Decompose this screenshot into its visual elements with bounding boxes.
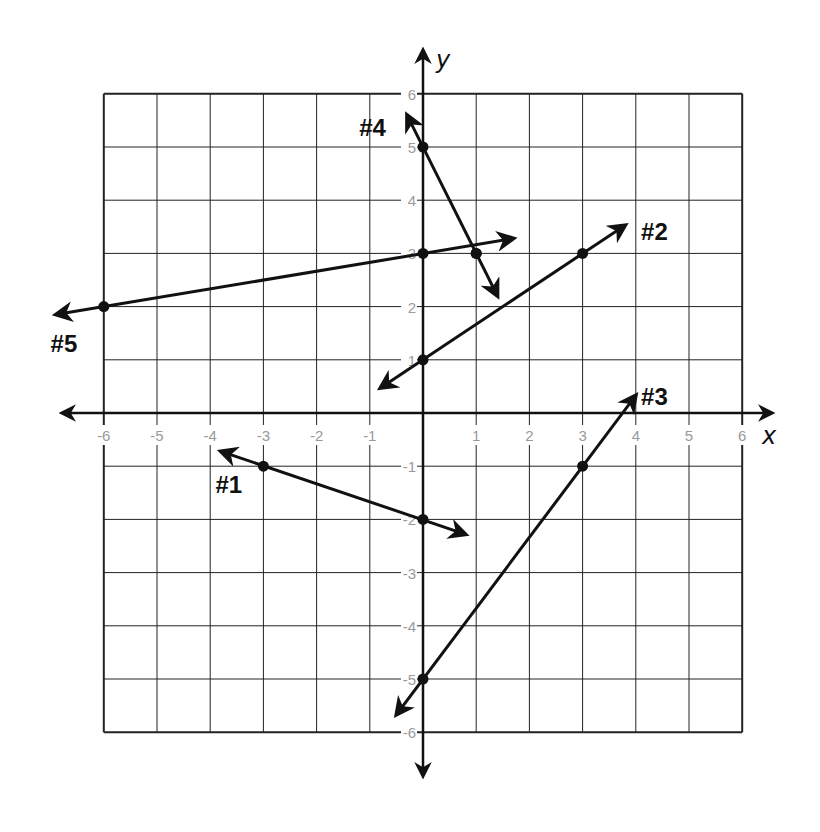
x-axis-label: x <box>761 422 777 450</box>
svg-text:-6: -6 <box>97 427 110 444</box>
line-label: #1 <box>216 471 243 498</box>
svg-text:5: 5 <box>408 139 416 156</box>
svg-text:3: 3 <box>578 427 586 444</box>
coordinate-plane: -6-5-4-3-2-1123456654321-1-2-3-4-5-6 #1#… <box>0 0 820 832</box>
plotted-lines: #1#2#3#4#5 <box>51 114 668 714</box>
line-label: #5 <box>51 330 78 357</box>
svg-text:-1: -1 <box>363 427 376 444</box>
line-5: #5 <box>51 239 514 357</box>
svg-text:4: 4 <box>632 427 640 444</box>
svg-text:-4: -4 <box>204 427 217 444</box>
svg-text:6: 6 <box>738 427 746 444</box>
svg-text:4: 4 <box>408 192 416 209</box>
svg-text:6: 6 <box>408 86 416 103</box>
svg-text:-5: -5 <box>403 671 416 688</box>
svg-text:-4: -4 <box>403 618 416 635</box>
svg-text:-6: -6 <box>403 724 416 741</box>
line-label: #3 <box>641 383 668 410</box>
svg-text:-3: -3 <box>257 427 270 444</box>
svg-text:5: 5 <box>685 427 693 444</box>
svg-text:-3: -3 <box>403 565 416 582</box>
svg-text:1: 1 <box>472 427 480 444</box>
line-label: #4 <box>359 114 386 141</box>
line-4: #4 <box>359 114 497 296</box>
svg-text:-5: -5 <box>150 427 163 444</box>
line-1: #1 <box>216 451 466 534</box>
svg-text:-1: -1 <box>403 458 416 475</box>
svg-text:2: 2 <box>408 299 416 316</box>
axes <box>62 50 772 776</box>
svg-text:2: 2 <box>525 427 533 444</box>
y-axis-label: y <box>435 46 451 74</box>
svg-text:-2: -2 <box>310 427 323 444</box>
line-label: #2 <box>641 218 668 245</box>
